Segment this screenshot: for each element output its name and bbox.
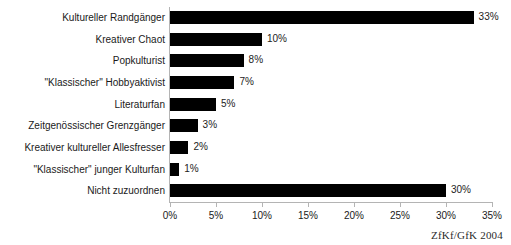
- bar: [170, 119, 198, 132]
- category-label: Kultureller Randgänger: [0, 7, 165, 29]
- bar-chart-figure: Kultureller RandgängerKreativer ChaotPop…: [0, 0, 511, 245]
- bar-row: 8%: [170, 50, 492, 72]
- category-label: Kreativer Chaot: [0, 29, 165, 51]
- category-label: Popkulturist: [0, 50, 165, 72]
- plot-area: 33%10%8%7%5%3%2%1%30%: [170, 7, 492, 202]
- x-tick-label: 15%: [298, 209, 318, 222]
- bar: [170, 163, 179, 176]
- bar: [170, 76, 234, 89]
- x-tick-mark: [492, 203, 493, 207]
- category-label: "Klassischer" junger Kulturfan: [0, 159, 165, 181]
- x-tick-label: 0%: [163, 209, 177, 222]
- bar: [170, 184, 446, 197]
- x-tick-mark: [400, 203, 401, 207]
- x-axis-line: [169, 202, 493, 203]
- x-tick-label: 20%: [344, 209, 364, 222]
- bar-row: 5%: [170, 94, 492, 116]
- bar-value-label: 30%: [451, 182, 471, 197]
- bar-row: 10%: [170, 29, 492, 51]
- x-tick-mark: [308, 203, 309, 207]
- bar-value-label: 1%: [184, 161, 198, 176]
- bar: [170, 141, 188, 154]
- bar-row: 2%: [170, 137, 492, 159]
- x-tick-label: 30%: [436, 209, 456, 222]
- x-tick-label: 10%: [252, 209, 272, 222]
- x-tick-label: 5%: [209, 209, 223, 222]
- bar-row: 1%: [170, 159, 492, 181]
- category-label: Literaturfan: [0, 94, 165, 116]
- category-label: Kreativer kultureller Allesfresser: [0, 137, 165, 159]
- bar: [170, 54, 244, 67]
- x-tick-mark: [170, 203, 171, 207]
- bar: [170, 33, 262, 46]
- x-tick-mark: [262, 203, 263, 207]
- bar-value-label: 7%: [239, 74, 253, 89]
- category-label: Zeitgenössischer Grenzgänger: [0, 115, 165, 137]
- source-credit: ZfKf/GfK 2004: [431, 229, 503, 241]
- bar-row: 3%: [170, 115, 492, 137]
- x-tick-mark: [446, 203, 447, 207]
- bar-value-label: 2%: [193, 139, 207, 154]
- bar-value-label: 5%: [221, 96, 235, 111]
- x-tick-label: 35%: [482, 209, 502, 222]
- category-label: Nicht zuzuordnen: [0, 180, 165, 202]
- bar-value-label: 8%: [249, 52, 263, 67]
- x-tick-label: 25%: [390, 209, 410, 222]
- category-label: "Klassischer" Hobbyaktivist: [0, 72, 165, 94]
- bar: [170, 11, 474, 24]
- bar-row: 30%: [170, 180, 492, 202]
- bar-row: 33%: [170, 7, 492, 29]
- bar-value-label: 10%: [267, 31, 287, 46]
- x-tick-mark: [354, 203, 355, 207]
- bar-row: 7%: [170, 72, 492, 94]
- bar-value-label: 3%: [203, 117, 217, 132]
- bar-value-label: 33%: [479, 9, 499, 24]
- x-tick-mark: [216, 203, 217, 207]
- bar: [170, 98, 216, 111]
